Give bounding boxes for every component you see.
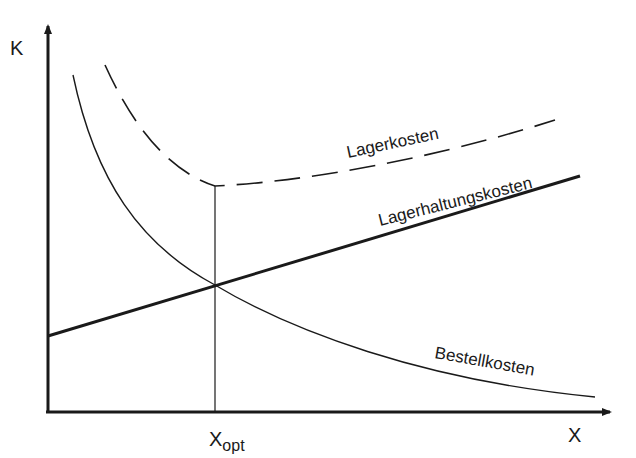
bestellkosten-curve xyxy=(73,75,595,397)
xopt-label-main: X xyxy=(209,428,222,450)
lagerkosten-label: Lagerkosten xyxy=(345,124,440,162)
lagerkosten-curve xyxy=(105,65,555,186)
xopt-label: Xopt xyxy=(209,428,245,454)
cost-chart: K X Xopt Lagerkosten Lagerhaltungskosten… xyxy=(0,0,636,458)
xopt-label-sub: opt xyxy=(222,437,245,454)
x-axis-label: X xyxy=(568,424,581,446)
y-axis-label: K xyxy=(10,37,24,59)
lagerhaltungskosten-label: Lagerhaltungskosten xyxy=(376,173,534,230)
